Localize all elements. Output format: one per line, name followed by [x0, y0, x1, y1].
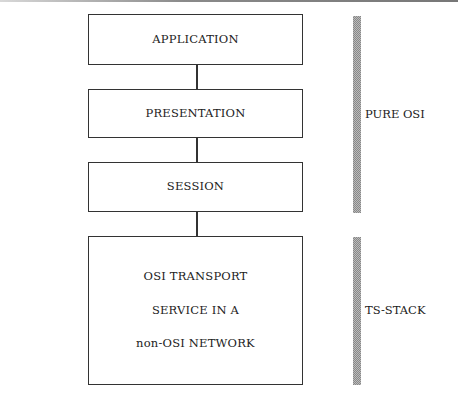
layer-presentation: PRESENTATION — [88, 89, 303, 138]
layer-application: APPLICATION — [88, 14, 303, 65]
bracket-bar-pure-osi — [353, 16, 361, 213]
layer-application-label: APPLICATION — [152, 34, 238, 46]
connector-session-transport — [196, 212, 198, 236]
layer-presentation-label: PRESENTATION — [146, 108, 246, 120]
connector-application-presentation — [196, 65, 198, 89]
bracket-bar-ts-stack — [353, 237, 361, 385]
layer-session-label: SESSION — [167, 181, 224, 193]
top-rule — [0, 0, 458, 2]
bracket-label-ts-stack: TS-STACK — [365, 305, 425, 317]
connector-presentation-session — [196, 138, 198, 162]
layer-transport-label-line-2: SERVICE IN A — [152, 305, 239, 317]
bracket-label-pure-osi: PURE OSI — [365, 109, 425, 121]
layer-transport-label-line-1: OSI TRANSPORT — [144, 271, 248, 283]
layer-transport: OSI TRANSPORT SERVICE IN A non-OSI NETWO… — [88, 236, 303, 385]
layer-session: SESSION — [88, 162, 303, 212]
layer-transport-label-line-3: non-OSI NETWORK — [136, 338, 255, 350]
